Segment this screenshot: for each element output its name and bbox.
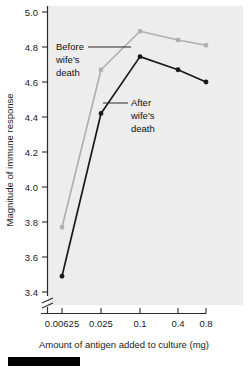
data-point [204, 80, 209, 85]
x-tick-label: 0.4 [171, 318, 184, 329]
data-point [176, 67, 181, 72]
y-tick-label: 3.6 [25, 252, 38, 263]
data-point [138, 54, 143, 59]
data-point [99, 111, 104, 116]
y-tick-label: 4.8 [25, 42, 38, 53]
data-point [60, 225, 64, 229]
data-point [176, 38, 180, 42]
annotation-before-line3: death [56, 67, 80, 78]
y-tick-label: 4.2 [25, 147, 38, 158]
x-axis-ticks: 0.006250.0250.10.40.8 [45, 308, 213, 329]
data-point [99, 68, 103, 72]
y-tick-label: 3.8 [25, 217, 38, 228]
y-axis-title: Magnitude of immune response [4, 93, 15, 226]
x-tick-label: 0.025 [89, 318, 113, 329]
y-tick-label: 4.4 [25, 112, 38, 123]
y-axis-ticks: 3.43.63.84.04.24.44.64.85.0 [25, 7, 48, 298]
annotation-before-line1: Before [56, 41, 84, 52]
x-tick-label: 0.00625 [45, 318, 79, 329]
figure-immune-response-chart: 3.43.63.84.04.24.44.64.85.0 0.006250.025… [0, 0, 249, 369]
x-tick-label: 0.1 [133, 318, 146, 329]
annotation-after-line3: death [131, 123, 155, 134]
y-tick-label: 3.4 [25, 287, 38, 298]
annotation-after-line2: wife's [130, 110, 155, 121]
y-tick-label: 5.0 [25, 7, 38, 18]
chart-svg: 3.43.63.84.04.24.44.64.85.0 0.006250.025… [0, 0, 249, 369]
annotation-before-line2: wife's [55, 54, 80, 65]
caption-bar [8, 357, 80, 366]
data-point [60, 274, 65, 279]
data-point [138, 29, 142, 33]
y-tick-label: 4.6 [25, 77, 38, 88]
x-tick-label: 0.8 [199, 318, 212, 329]
x-axis-title: Amount of antigen added to culture (mg) [39, 339, 209, 350]
annotation-after-line1: After [131, 97, 151, 108]
y-tick-label: 4.0 [25, 182, 38, 193]
data-point [204, 43, 208, 47]
